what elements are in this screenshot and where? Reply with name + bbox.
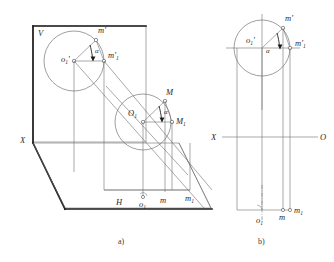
- svg-text:o1': o1': [61, 54, 70, 65]
- label-x-axis-a: X: [19, 135, 26, 145]
- point-m1-plan-b: [288, 208, 291, 211]
- h-left-edge-a: [33, 143, 65, 208]
- label-alpha-b: α: [266, 47, 270, 55]
- point-m-prime-a: [94, 38, 97, 41]
- label-v-plane: V: [38, 28, 45, 38]
- label-m-prime-a: m': [98, 25, 106, 35]
- label-o1-prime-b: o1': [246, 35, 255, 46]
- label-o1-prime-a: o1': [61, 54, 70, 65]
- label-M1-a: M1: [175, 116, 186, 127]
- label-m1-prime-b: m'1: [295, 38, 306, 49]
- caption-a: a): [118, 237, 125, 246]
- label-h-plane: H: [115, 197, 123, 207]
- label-m-plan-a: m: [160, 195, 166, 205]
- svg-text:m'1: m'1: [108, 50, 119, 61]
- frontal-circle-group-a: [44, 31, 106, 91]
- caption-b: b): [258, 237, 265, 246]
- right-angle-marker-b: [257, 205, 262, 209]
- label-alpha-spatial-a: α: [164, 108, 168, 116]
- label-M-a: M: [165, 87, 174, 97]
- label-m1-prime-a: m'1: [108, 50, 119, 61]
- svg-text:m1: m1: [294, 205, 303, 216]
- label-o-axis-b: O: [320, 132, 326, 142]
- svg-text:m'1: m'1: [295, 38, 306, 49]
- svg-text:o1: o1: [139, 199, 146, 210]
- label-alpha-frontal-a: α: [95, 47, 99, 55]
- panel-b-group: X O o1' m' m'1 α o1 m m1 b): [210, 13, 326, 246]
- svg-text:m1: m1: [185, 193, 194, 204]
- svg-text:o1': o1': [246, 35, 255, 46]
- label-O1-a: O1: [128, 108, 137, 119]
- depth-line-o1-a: [74, 61, 204, 208]
- label-m1-plan-b: m1: [294, 205, 303, 216]
- label-x-axis-b: X: [210, 132, 217, 142]
- label-m-plan-b: m: [279, 212, 285, 222]
- panel-a-group: V X H o1' m' m'1 α O1 M M1 α o1: [19, 25, 212, 246]
- svg-text:O1: O1: [128, 108, 137, 119]
- figure-canvas: V X H o1' m' m'1 α O1 M M1 α o1: [0, 0, 334, 262]
- plan-rectangle-a: [104, 143, 190, 190]
- rotation-arrowhead-b: [278, 44, 283, 49]
- axis-receding-a: [106, 86, 188, 175]
- chord-b: [283, 28, 290, 48]
- svg-text:M1: M1: [175, 116, 186, 127]
- depth-line-m1-a: [104, 61, 212, 190]
- technical-drawing-svg: V X H o1' m' m'1 α O1 M M1 α o1: [0, 0, 334, 262]
- label-o1-plan-a: o1: [139, 199, 146, 210]
- label-m1-plan-a: m1: [185, 193, 194, 204]
- label-m-prime-b: m': [285, 13, 293, 23]
